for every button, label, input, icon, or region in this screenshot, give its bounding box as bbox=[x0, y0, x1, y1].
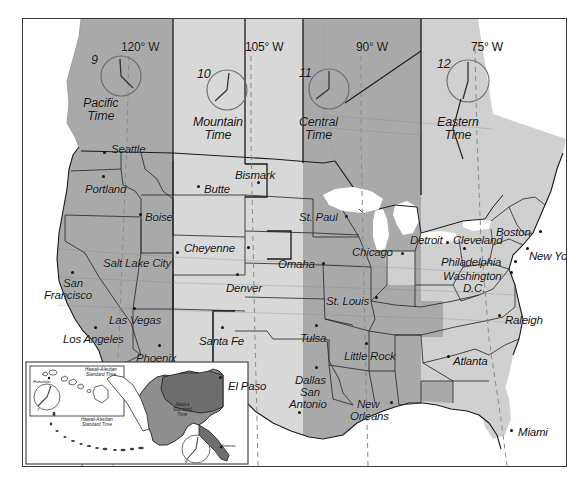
longitude-label: 90° W bbox=[356, 41, 388, 53]
city-label: Cheyenne bbox=[184, 243, 235, 255]
city-label: Orleans bbox=[350, 411, 389, 423]
city-label: Boise bbox=[145, 212, 173, 224]
city-label: Denver bbox=[226, 283, 262, 295]
city-label: Boston bbox=[496, 227, 531, 239]
clock-hour-mountain-time: 10 bbox=[197, 68, 211, 81]
city-label: Miami bbox=[518, 427, 548, 439]
timezone-label-line2: Time bbox=[87, 109, 114, 123]
city-label: New bbox=[357, 399, 379, 411]
map-frame: 120° W105° W90° W75° W PacificTime9Mount… bbox=[22, 18, 567, 467]
timezone-label-pacific-time: PacificTime bbox=[83, 97, 118, 123]
longitude-label: 120° W bbox=[121, 41, 159, 53]
hawaii-aleutian-label-chain: Hawaii-Aleutian Standard Time bbox=[81, 417, 113, 427]
city-label: Atlanta bbox=[453, 356, 487, 368]
timezone-label-line2: Time bbox=[444, 128, 471, 142]
timezone-label-eastern-time: EasternTime bbox=[437, 116, 479, 142]
timezone-label-central-time: CentralTime bbox=[299, 116, 338, 142]
honolulu-label: Honolulu bbox=[33, 379, 50, 384]
city-label: D.C. bbox=[463, 283, 485, 295]
clock-hour-pacific-time: 9 bbox=[91, 54, 98, 67]
time-zone-map-screenshot: 120° W105° W90° W75° W PacificTime9Mount… bbox=[0, 0, 587, 487]
clock-hour-central-time: 11 bbox=[299, 67, 312, 80]
city-label: Chicago bbox=[352, 247, 393, 259]
city-label: San bbox=[63, 278, 83, 290]
tn-central-part bbox=[415, 301, 443, 337]
city-label: Portland bbox=[85, 184, 126, 196]
city-label: Salt Lake City bbox=[103, 258, 171, 270]
hawaii-clock-hour: 7 bbox=[37, 407, 39, 412]
timezone-label-mountain-time: MountainTime bbox=[193, 116, 243, 142]
hawaii-aleutian-label-box: Hawaii-Aleutian Standard Time bbox=[85, 367, 117, 377]
fl-central-part bbox=[421, 381, 453, 403]
city-label: Antonio bbox=[289, 399, 327, 411]
city-label: Cleveland bbox=[453, 235, 502, 247]
city-label: Bismark bbox=[235, 170, 275, 182]
alaska-standard-time-label: Alaska Standard Time bbox=[173, 402, 192, 417]
city-label: Raleigh bbox=[505, 315, 543, 327]
city-label: Philadelphia bbox=[441, 257, 501, 269]
city-label: Washington bbox=[443, 271, 502, 283]
city-label: Los Angeles bbox=[63, 334, 124, 346]
city-label: Dallas bbox=[295, 375, 326, 387]
juneau-label: Juneau bbox=[221, 443, 235, 448]
clock-hour-eastern-time: 12 bbox=[437, 58, 451, 71]
timezone-label-line2: Time bbox=[305, 128, 332, 142]
timezone-label-line2: Time bbox=[204, 128, 231, 142]
city-label: Phoenix bbox=[136, 353, 176, 365]
city-label: Tulsa bbox=[300, 333, 326, 345]
city-label: Butte bbox=[204, 184, 230, 196]
city-label: Detroit bbox=[410, 235, 442, 247]
city-label: Omaha bbox=[278, 259, 315, 271]
longitude-label: 75° W bbox=[471, 41, 503, 53]
city-label: San bbox=[300, 387, 320, 399]
alaska-clock-hour: 8 bbox=[185, 459, 187, 464]
city-label: El Paso bbox=[228, 381, 266, 393]
longitude-label: 105° W bbox=[245, 41, 283, 53]
city-label: St. Louis bbox=[326, 296, 369, 308]
city-label: Little Rock bbox=[344, 351, 396, 363]
ne-mountain-part bbox=[267, 231, 291, 259]
city-label: Santa Fe bbox=[199, 336, 244, 348]
city-label: St. Paul bbox=[299, 212, 338, 224]
city-label: Las Vegas bbox=[109, 315, 161, 327]
city-label: Seattle bbox=[111, 144, 145, 156]
city-label: Francisco bbox=[44, 290, 92, 302]
city-label: New York bbox=[529, 251, 567, 263]
